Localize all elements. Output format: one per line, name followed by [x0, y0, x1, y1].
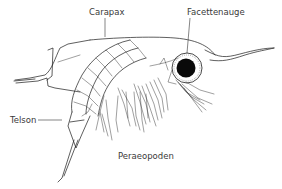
label-facettenauge-text: Facettenauge	[187, 7, 245, 17]
label-telson: Telson	[9, 115, 62, 125]
peraeopods	[96, 78, 168, 140]
label-facettenauge: Facettenauge	[187, 7, 245, 53]
rostrum	[205, 48, 274, 61]
label-telson-text: Telson	[9, 115, 36, 125]
abdomen-segments	[71, 40, 178, 116]
label-carapax-text: Carapax	[89, 7, 124, 17]
label-peraeopoden-text: Peraeopoden	[118, 151, 174, 161]
crustacean-diagram: Carapax Facettenauge Telson Peraeopoden	[0, 0, 282, 189]
label-peraeopoden: Peraeopoden	[118, 151, 174, 161]
compound-eye	[172, 53, 202, 83]
telson-shape	[58, 104, 92, 182]
label-carapax: Carapax	[89, 7, 124, 37]
